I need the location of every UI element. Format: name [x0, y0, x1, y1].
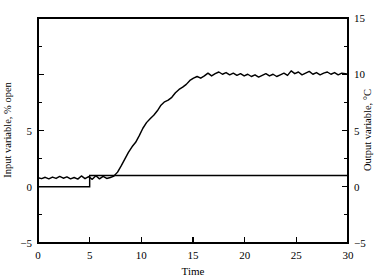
step-response-chart: −505 −5051015 051015202530 Input variabl… [0, 0, 382, 280]
left-tick-label: 0 [27, 181, 33, 193]
x-axis-title: Time [182, 265, 205, 277]
x-tick-label: 20 [239, 249, 251, 261]
x-tick-label: 5 [87, 249, 93, 261]
right-tick-label: 5 [354, 125, 360, 137]
right-tick-label: 10 [354, 68, 366, 80]
x-tick-label: 15 [188, 249, 200, 261]
right-tick-label: −5 [354, 237, 366, 249]
right-tick-label: 0 [354, 181, 360, 193]
x-tick-label: 10 [136, 249, 148, 261]
chart-background [0, 0, 382, 280]
chart-container: −505 −5051015 051015202530 Input variabl… [0, 0, 382, 280]
x-tick-label: 25 [291, 249, 303, 261]
right-axis-title: Output variable, °C [362, 89, 373, 171]
left-tick-label: −5 [20, 237, 32, 249]
x-tick-label: 0 [35, 249, 41, 261]
left-tick-label: 5 [27, 125, 33, 137]
left-axis-title: Input variable, % open [2, 81, 13, 177]
right-tick-label: 15 [354, 12, 366, 24]
x-tick-label: 30 [343, 249, 355, 261]
